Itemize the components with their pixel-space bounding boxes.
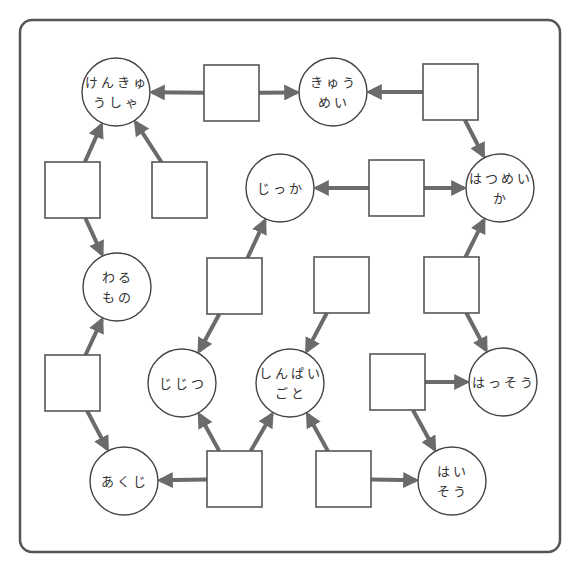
word-circle-kyuumei: きゅうめい [299,58,367,126]
answer-box[interactable] [370,354,425,410]
box-12[interactable] [316,451,371,507]
box-9[interactable] [45,355,100,411]
word-label: はっそう [472,375,536,390]
word-circle [256,349,324,417]
word-circle [82,58,150,126]
answer-box[interactable] [45,355,100,411]
arrow-box-3-to-warumono [85,218,102,254]
answer-box[interactable] [423,64,478,120]
word-label: そう [437,484,469,499]
answer-box[interactable] [316,451,371,507]
arrow-box-8-to-hassou [466,313,486,350]
word-circle-haisou: はいそう [418,447,486,515]
box-10[interactable] [370,354,425,410]
box-3[interactable] [45,162,100,218]
box-4[interactable] [152,162,207,218]
word-circle-shinpaigoto: しんぱいごと [256,349,324,417]
word-circle-hassou: はっそう [469,348,537,416]
word-label: もの [102,290,134,305]
word-label: あくじ [101,474,149,489]
word-circle [466,154,534,222]
arrow-box-12-to-shinpaigoto [308,414,328,451]
answer-box[interactable] [424,257,479,313]
box-5[interactable] [369,160,424,216]
word-label: か [493,191,509,206]
arrow-box-6-to-jijitsu [199,314,219,351]
word-label: じじつ [159,376,207,391]
arrow-box-10-to-haisou [413,410,435,450]
word-circle-warumono: わるもの [83,253,151,321]
word-circle [418,447,486,515]
word-label: ごと [275,386,307,401]
word-puzzle-diagram: けんきゅうしゃきゅうめいじっかはつめいかわるものじじつしんぱいごとはっそうあくじ… [0,0,578,574]
arrow-box-11-to-akuji [160,480,207,481]
word-label: しんぱい [259,366,323,381]
answer-box[interactable] [314,257,369,313]
answer-box[interactable] [152,162,207,218]
word-circle [83,253,151,321]
box-1[interactable] [204,65,259,121]
word-circle-jikka: じっか [246,154,314,222]
answer-box[interactable] [207,451,262,507]
word-circle [299,58,367,126]
arrow-box-9-to-warumono [86,320,102,355]
arrow-box-2-to-hatsumeika [465,120,484,156]
word-circle-akuji: あくじ [90,447,158,515]
box-7[interactable] [314,257,369,313]
word-label: じっか [257,181,305,196]
box-6[interactable] [207,258,262,314]
answer-box[interactable] [45,162,100,218]
word-label: うしゃ [93,95,141,110]
answer-box[interactable] [207,258,262,314]
arrow-box-8-to-hatsumeika [466,220,484,257]
word-circle-jijitsu: じじつ [148,349,216,417]
box-8[interactable] [424,257,479,313]
word-label: わる [102,270,134,285]
arrow-box-1-to-kenkyuusha [152,92,204,93]
word-circle-hatsumeika: はつめいか [466,154,534,222]
answer-box[interactable] [204,65,259,121]
answer-box[interactable] [369,160,424,216]
arrow-box-7-to-shinpaigoto [307,313,327,351]
box-11[interactable] [207,451,262,507]
arrow-box-6-to-jikka [248,221,265,258]
box-2[interactable] [423,64,478,120]
word-label: めい [318,95,350,110]
arrow-box-11-to-shinpaigoto [251,414,272,451]
word-circle-kenkyuusha: けんきゅうしゃ [82,58,150,126]
arrow-box-12-to-haisou [371,480,416,481]
arrow-box-4-to-kenkyuusha [136,122,162,162]
word-label: はつめい [469,171,533,186]
word-label: きゅう [310,75,358,90]
word-label: けんきゅ [85,75,149,90]
arrow-box-3-to-kenkyuusha [85,125,102,162]
arrow-box-9-to-akuji [87,411,107,449]
word-label: はい [437,464,469,479]
arrow-box-11-to-jijitsu [199,415,219,451]
